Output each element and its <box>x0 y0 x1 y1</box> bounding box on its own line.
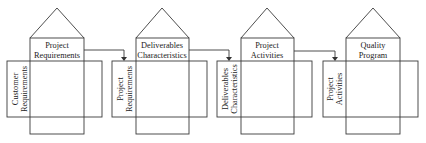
arrow-h1-to-h2 <box>84 50 124 58</box>
arrow-h3-to-h4 <box>294 51 335 58</box>
connector-arrows <box>84 50 338 61</box>
roof <box>30 8 84 38</box>
arrow-h2-to-h3 <box>189 50 229 58</box>
side-label-line2: Requirements <box>20 66 29 112</box>
side-label-line1: Project <box>116 77 125 101</box>
house-project-requirements: Project Requirements Customer Requiremen… <box>7 8 102 134</box>
roof-title-line2: Characteristics <box>137 51 186 60</box>
house-project-activities: Project Activities Deliverables Characte… <box>217 8 312 134</box>
roof-title-line1: Project <box>45 41 69 50</box>
arrowhead-icon <box>226 57 232 61</box>
arrowhead-icon <box>121 57 127 61</box>
arrowhead-icon <box>332 57 338 61</box>
roof <box>346 8 400 38</box>
side-label-line2: Characteristics <box>230 64 239 113</box>
side-label-line1: Deliverables <box>221 68 230 110</box>
diagram-canvas: Project Requirements Customer Requiremen… <box>0 0 426 143</box>
roof <box>136 8 189 38</box>
house-deliverables-characteristics: Deliverables Characteristics Project Req… <box>112 8 207 134</box>
side-label-line1: Customer <box>11 73 20 106</box>
side-label-line2: Requirements <box>125 66 134 112</box>
roof-title-line2: Requirements <box>34 51 80 60</box>
house-quality-program: Quality Program Project Activities <box>323 8 418 134</box>
roof-title-line1: Deliverables <box>141 41 183 50</box>
roof <box>241 8 294 38</box>
roof-title-line1: Project <box>255 41 279 50</box>
roof-title-line1: Quality <box>361 41 387 50</box>
side-label-line2: Activities <box>335 73 344 105</box>
roof-title-line2: Program <box>359 51 388 60</box>
roof-title-line2: Activities <box>251 51 283 60</box>
side-label-line1: Project <box>326 77 335 101</box>
